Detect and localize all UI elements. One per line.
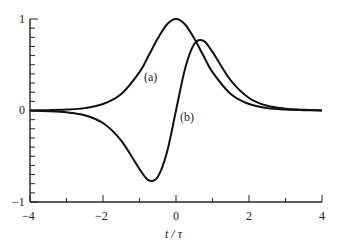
curve-a xyxy=(30,19,322,110)
y-tick-label-0: 0 xyxy=(19,103,25,117)
curve-b xyxy=(30,40,322,181)
x-tick-label-4: 4 xyxy=(319,209,325,223)
y-tick-label-1: 1 xyxy=(19,12,25,26)
x-tick-label-2: 2 xyxy=(246,209,252,223)
x-tick-label-m2: −2 xyxy=(95,209,108,223)
line-chart: 1 0 −1 −4 −2 0 2 4 t / τ (a) (b) xyxy=(0,0,337,252)
x-axis-label: t / τ xyxy=(165,227,183,241)
x-ticks xyxy=(30,195,322,202)
x-tick-label-m4: −4 xyxy=(22,209,35,223)
y-tick-label-m1: −1 xyxy=(12,195,25,209)
x-tick-label-0: 0 xyxy=(173,209,179,223)
curve-b-label: (b) xyxy=(180,110,194,124)
curve-a-label: (a) xyxy=(144,70,157,84)
